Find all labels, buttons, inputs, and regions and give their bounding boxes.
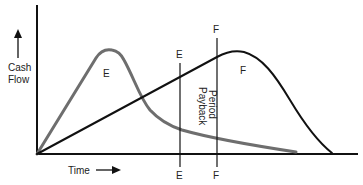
- curve-e: [37, 50, 296, 154]
- x-axis-arrow-icon: [96, 166, 121, 174]
- curve-e-label: E: [103, 68, 110, 79]
- curve-f-label: F: [240, 65, 246, 76]
- cash-flow-diagram: Cash Flow Time E F E F E F Payback Perio…: [0, 0, 363, 185]
- marker-e-top-label: E: [176, 49, 183, 60]
- marker-f-top-label: F: [213, 24, 219, 35]
- y-axis-label-line1: Cash: [8, 62, 31, 73]
- period-label: Period: [207, 90, 218, 119]
- x-axis-label: Time: [68, 165, 90, 176]
- y-axis-arrow-icon: [14, 29, 22, 58]
- marker-f-bottom-label: F: [213, 170, 219, 181]
- marker-e-bottom-label: E: [176, 170, 183, 181]
- payback-period-annotation: Payback Period: [197, 87, 218, 126]
- curve-f: [37, 51, 332, 154]
- y-axis-label-line2: Flow: [8, 74, 30, 85]
- payback-label: Payback: [197, 87, 208, 126]
